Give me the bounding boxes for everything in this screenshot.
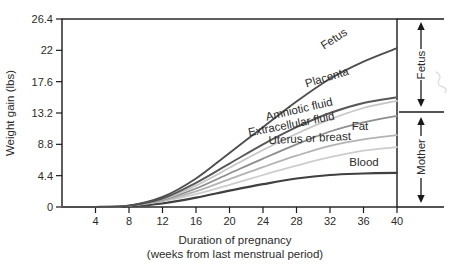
x-tick-label-4: 4	[92, 215, 98, 227]
mother-bracket-arrow-down-icon	[417, 195, 424, 203]
y-tick-label-8.8: 8.8	[38, 138, 53, 150]
fetus-bracket-label: Fetus	[415, 50, 427, 79]
mother-bracket-label: Mother	[415, 139, 427, 175]
curve-label-placenta: Placenta	[304, 65, 351, 90]
mother-bracket-arrow-up-icon	[417, 117, 424, 125]
x-tick-label-12: 12	[156, 215, 168, 227]
curve-label-fetus: Fetus	[318, 26, 349, 52]
curve-label-fat: Fat	[352, 120, 369, 132]
axes-layer: 04.48.813.217.62226.4481216202428323640	[32, 13, 404, 227]
y-tick-label-17.6: 17.6	[32, 76, 53, 88]
y-tick-label-13.2: 13.2	[32, 107, 53, 119]
curve-blood	[62, 173, 397, 207]
pregnancy-weight-gain-chart: 04.48.813.217.62226.4481216202428323640 …	[0, 0, 454, 272]
y-tick-label-0: 0	[47, 201, 53, 213]
x-tick-label-28: 28	[290, 215, 302, 227]
x-tick-label-40: 40	[391, 215, 403, 227]
fetus-bracket-arrow-down-icon	[417, 99, 424, 107]
y-axis-title: Weight gain (lbs)	[4, 70, 16, 156]
x-tick-label-20: 20	[223, 215, 235, 227]
curve-fat	[62, 135, 397, 207]
x-tick-label-24: 24	[257, 215, 269, 227]
curve-uterus	[62, 147, 397, 207]
x-tick-label-16: 16	[190, 215, 202, 227]
curve-label-blood: Blood	[349, 156, 378, 168]
x-tick-label-32: 32	[324, 215, 336, 227]
y-tick-label-4.4: 4.4	[38, 170, 53, 182]
x-tick-label-36: 36	[357, 215, 369, 227]
fetus-bracket-arrow-up-icon	[417, 22, 424, 30]
y-tick-label-26.4: 26.4	[32, 13, 53, 25]
print-artifact-smudge	[436, 72, 446, 93]
x-tick-label-8: 8	[126, 215, 132, 227]
x-axis-title-line1: Duration of pregnancy	[178, 234, 291, 246]
pregnancy-weight-gain-figure: 04.48.813.217.62226.4481216202428323640 …	[0, 0, 454, 272]
fetus-mother-brackets	[397, 19, 444, 207]
y-tick-label-22: 22	[41, 44, 53, 56]
x-axis-title-line2: (weeks from last menstrual period)	[147, 248, 324, 260]
